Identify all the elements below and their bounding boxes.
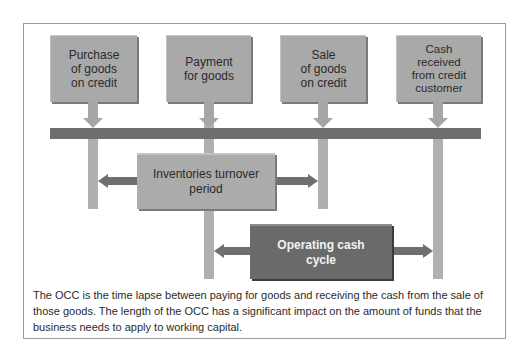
vertical-line-sale [318, 139, 328, 209]
caption-text: The OCC is the time lapse between paying… [33, 287, 503, 335]
right-arrow-icon [394, 244, 433, 258]
operating-cash-cycle-box: Operating cashcycle [250, 224, 392, 279]
vertical-line-purchase [88, 139, 98, 209]
event-sale-box: Saleof goodson credit [280, 35, 366, 102]
vertical-line-cash [433, 139, 443, 279]
inventories-turnover-period-box: Inventories turnoverperiod [137, 153, 275, 209]
timeline-bar [50, 128, 481, 139]
event-purchase-box: Purchaseof goodson credit [50, 35, 137, 102]
event-cash-received-box: Cashreceivedfrom creditcustomer [396, 35, 481, 102]
right-arrow-icon [277, 174, 318, 188]
left-arrow-icon [214, 244, 250, 258]
left-arrow-icon [98, 174, 137, 188]
event-payment-box: Paymentfor goods [166, 35, 251, 102]
